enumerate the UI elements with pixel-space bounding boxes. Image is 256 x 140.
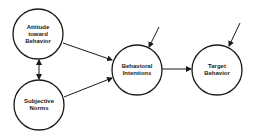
label-target-behavior: Target Behavior bbox=[192, 63, 242, 77]
label-attitude-toward-behavior: Attitude toward Behavior bbox=[13, 24, 63, 45]
edge-attitude-to-intentions bbox=[63, 43, 112, 60]
edge-external-to-intentions bbox=[149, 27, 159, 47]
edge-norms-to-intentions bbox=[64, 78, 112, 97]
edge-external-to-target bbox=[229, 23, 240, 46]
label-behavioral-intentions: Behavioral Intentions bbox=[112, 63, 162, 77]
label-subjective-norms: Subjective Norms bbox=[14, 98, 64, 112]
